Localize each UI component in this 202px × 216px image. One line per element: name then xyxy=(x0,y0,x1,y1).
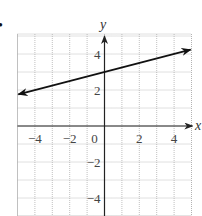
x-tick-label: 2 xyxy=(136,131,143,146)
y-tick-label: 4 xyxy=(94,47,101,62)
x-axis-label: x xyxy=(194,118,202,133)
y-tick-label: −4 xyxy=(87,191,101,206)
x-tick-label: −2 xyxy=(63,131,77,146)
y-tick-label: −2 xyxy=(87,155,101,170)
axes xyxy=(18,36,193,216)
y-tick-label: 2 xyxy=(94,83,101,98)
x-tick-label: −4 xyxy=(28,131,42,146)
x-tick-label: 0 xyxy=(91,131,98,146)
line-graph: • −4−2024−4−224 x y xyxy=(0,0,202,216)
y-axis-label: y xyxy=(98,17,107,32)
x-tick-label: 4 xyxy=(171,131,178,146)
problem-bullet: • xyxy=(0,18,3,33)
